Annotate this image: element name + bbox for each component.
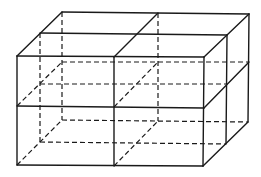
visible-edge: [226, 35, 227, 144]
visible-edges: [17, 12, 249, 166]
visible-edge: [62, 12, 249, 14]
visible-edge: [40, 33, 227, 35]
visible-edge: [17, 56, 204, 57]
visible-edge: [17, 165, 203, 166]
visible-edge: [203, 57, 204, 166]
hidden-edge: [40, 142, 226, 144]
visible-edge: [248, 14, 249, 122]
visible-edge: [114, 13, 158, 57]
cube-block-diagram: [0, 0, 261, 177]
hidden-edge: [62, 120, 248, 122]
visible-edge: [17, 106, 204, 108]
hidden-edge: [17, 120, 62, 165]
